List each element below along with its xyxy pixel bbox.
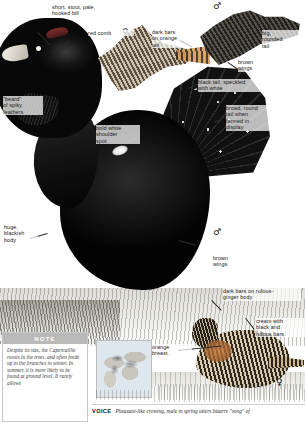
annotation-shoulder: bold white shoulder spot <box>96 125 140 144</box>
voice-text: Pheasant-like crowing, male in spring ut… <box>115 408 249 415</box>
annotation-comb: red comb <box>88 30 134 36</box>
annotation-black-tail: black tail, speckled with white <box>198 79 274 92</box>
note-panel: NOTE Despite its size, the Capercaillie … <box>2 332 88 422</box>
annotation-beard: "beard" of spiky feathers <box>3 96 43 115</box>
annotation-cream-bars: cream with black and rufous bars. <box>256 318 304 337</box>
annotation-orange-breast: orange breast. <box>152 344 192 357</box>
note-panel-header: NOTE <box>3 333 87 344</box>
voice-label: VOICE <box>92 408 111 414</box>
male-symbol-standing: ♂ <box>213 228 221 237</box>
annotation-brown-wings-top: brown wings <box>238 59 276 72</box>
voice-section: VOICE Pheasant-like crowing, male in spr… <box>92 404 305 422</box>
annotation-dark-bars-tail: dark bars on orange tail <box>152 29 196 48</box>
orange-breast-illustration <box>204 340 232 362</box>
male-symbol-flying: ♂ <box>213 2 221 11</box>
annotation-fanned-tail: broad, round tail when fanned in display <box>226 105 276 131</box>
map-range-shading <box>107 351 145 381</box>
annotation-brown-wings-mid: brown wings. <box>213 255 251 268</box>
note-panel-body: Despite its size, the Capercaillie roost… <box>3 344 87 387</box>
sonogram-strip-secondary <box>96 390 150 400</box>
annotation-rufous-body: dark bars on rufous- ginger body <box>223 288 301 301</box>
field-guide-plate: ♀ ♂ ♂ ♀ short, stout, pale, hooked bill … <box>0 0 305 422</box>
sonogram-strip <box>158 384 304 400</box>
eye-illustration <box>36 46 41 51</box>
annotation-body: huge, blackish body <box>4 224 38 243</box>
annotation-rounded-tail: big, rounded tail <box>262 30 302 49</box>
annotation-bill: short, stout, pale, hooked bill <box>52 4 126 17</box>
